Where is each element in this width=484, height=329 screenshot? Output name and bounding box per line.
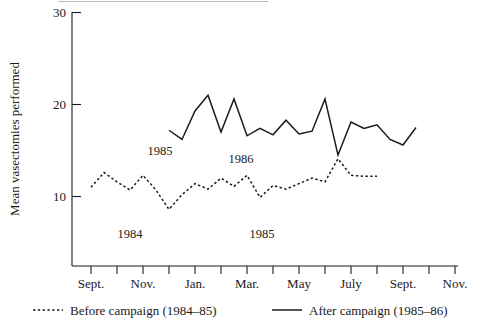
x-tick-label-nov-1: Nov. bbox=[131, 276, 156, 291]
x-tick-label-sept-2: Sept. bbox=[390, 276, 416, 291]
y-tick-label-20: 20 bbox=[53, 97, 66, 112]
x-tick-label-may: May bbox=[287, 276, 311, 291]
legend-item-before[interactable]: Before campaign (1984–85) bbox=[33, 303, 217, 318]
x-tick-label-jan: Jan. bbox=[185, 276, 206, 291]
y-tick-labels: 30 20 10 bbox=[53, 5, 66, 204]
chart-legend: Before campaign (1984–85) After campaign… bbox=[33, 303, 448, 318]
y-tick-label-10: 10 bbox=[53, 189, 66, 204]
chart-figure: 30 20 10 Mean vasectomies performed Sept… bbox=[0, 0, 484, 329]
line-chart-svg: 30 20 10 Mean vasectomies performed Sept… bbox=[0, 0, 484, 329]
x-tick-label-nov-2: Nov. bbox=[443, 276, 468, 291]
annotation-before-1985: 1985 bbox=[250, 227, 275, 241]
annotation-before-1984: 1984 bbox=[118, 227, 144, 241]
x-tick-label-july: July bbox=[340, 276, 362, 291]
series-line-before-campaign bbox=[91, 159, 377, 210]
annotation-after-1985: 1985 bbox=[148, 144, 173, 158]
inline-year-annotations: 1985 1986 1984 1985 bbox=[118, 144, 275, 241]
y-tick-label-30: 30 bbox=[53, 5, 66, 20]
x-tick-labels: Sept. Nov. Jan. Mar. May July Sept. Nov. bbox=[78, 276, 468, 291]
legend-label-before: Before campaign (1984–85) bbox=[70, 303, 217, 318]
legend-item-after[interactable]: After campaign (1985–86) bbox=[272, 303, 448, 318]
legend-label-after: After campaign (1985–86) bbox=[309, 303, 448, 318]
series-line-after-campaign bbox=[169, 95, 416, 155]
y-axis-title: Mean vasectomies performed bbox=[7, 62, 22, 216]
x-tick-label-sept-1: Sept. bbox=[78, 276, 104, 291]
annotation-after-1986: 1986 bbox=[229, 152, 254, 166]
x-tick-label-mar: Mar. bbox=[235, 276, 259, 291]
